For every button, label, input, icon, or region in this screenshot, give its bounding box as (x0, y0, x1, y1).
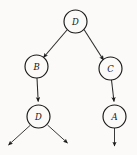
edge-right-to-rightchild (112, 80, 115, 102)
tree-node-rightchild[interactable]: A (103, 105, 126, 128)
edge-root-to-left (44, 30, 68, 58)
tree-node-root[interactable]: D (64, 10, 87, 33)
edge-left-to-leftchild (37, 78, 38, 102)
node-label: D (71, 17, 79, 27)
tree-node-left[interactable]: B (25, 55, 48, 78)
node-label: A (110, 112, 117, 122)
edge-group (9, 30, 115, 147)
node-label: B (32, 62, 39, 72)
diagram-canvas: D B C D A (0, 0, 137, 155)
edge-leftchild-out-left (9, 126, 31, 146)
edge-leftchild-out-right (48, 125, 68, 143)
edge-root-to-right (84, 30, 104, 61)
node-label: C (107, 64, 114, 74)
tree-node-leftchild[interactable]: D (27, 105, 50, 128)
node-group: D B C D A (25, 10, 126, 128)
tree-diagram: D B C D A (0, 0, 137, 155)
node-label: D (34, 112, 42, 122)
tree-node-right[interactable]: C (99, 57, 122, 80)
